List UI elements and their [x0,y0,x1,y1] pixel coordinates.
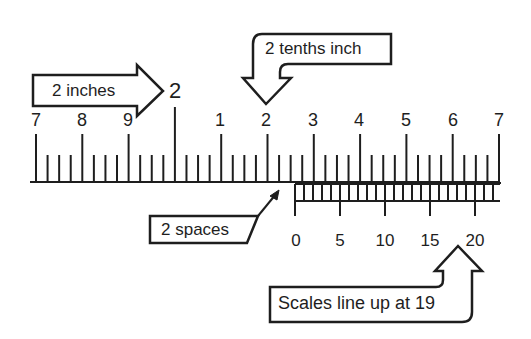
main-scale-label: 7 [494,111,504,129]
main-scale-label: 6 [448,111,458,129]
main-scale-label: 4 [354,111,364,129]
main-scale-label: 2 [261,111,271,129]
main-scale-label: 7 [31,111,41,129]
vernier-scale-label: 5 [335,232,344,249]
spaces-callout-text: 2 spaces [161,221,229,238]
tenths-callout-text: 2 tenths inch [265,40,361,57]
vernier-scale-label: 20 [466,232,485,249]
vernier-scale-label: 15 [421,232,440,249]
vernier-diagram: 2 7 8 9 1 2 3 4 5 6 7 0 5 10 15 20 2 inc… [0,0,531,339]
main-scale-label: 3 [308,111,318,129]
main-scale-label: 8 [77,111,87,129]
main-scale-label: 9 [123,111,133,129]
vernier-scale-label: 0 [291,232,300,249]
main-scale-label: 1 [215,111,225,129]
lineup-callout-text: Scales line up at 19 [278,294,435,312]
inches-callout-text: 2 inches [52,82,115,99]
main-scale-label: 5 [401,111,411,129]
main-scale-inch-label: 2 [169,80,181,102]
vernier-scale [295,182,500,216]
vernier-scale-label: 10 [376,232,395,249]
